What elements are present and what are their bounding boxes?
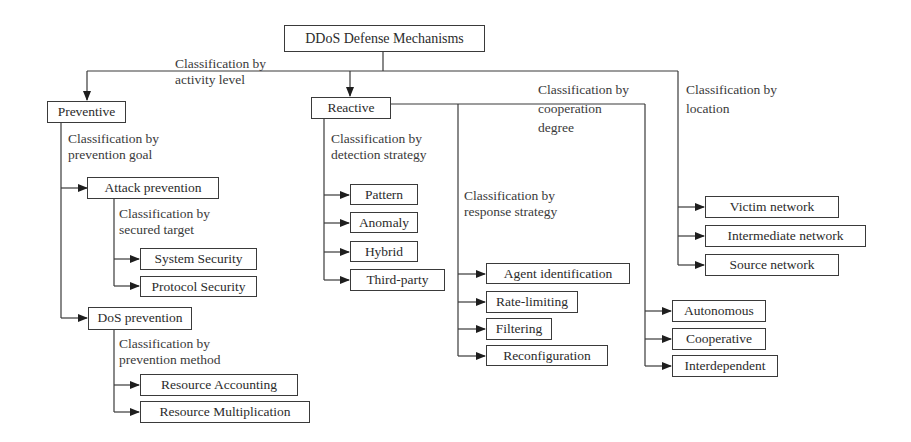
classification-line: prevention goal: [68, 147, 159, 163]
node-filtering: Filtering: [486, 318, 552, 340]
node-autonomous: Autonomous: [672, 300, 766, 322]
classification-cooperation-degree: Classification by cooperation degree: [538, 80, 629, 137]
classification-line: cooperation: [538, 99, 629, 118]
ddos-taxonomy-diagram: DDoS Defense Mechanisms Classification b…: [0, 0, 911, 442]
node-attack-prevention: Attack prevention: [87, 177, 219, 199]
classification-detection-strategy: Classification by detection strategy: [331, 131, 427, 163]
node-resource-accounting: Resource Accounting: [140, 374, 298, 396]
classification-line: location: [686, 99, 777, 118]
node-reconfiguration: Reconfiguration: [486, 345, 608, 366]
classification-line: activity level: [175, 72, 266, 88]
node-pattern: Pattern: [350, 184, 418, 205]
node-intermediate-network: Intermediate network: [705, 225, 866, 247]
classification-line: Classification by: [175, 56, 266, 72]
classification-prevention-goal: Classification by prevention goal: [68, 131, 159, 163]
classification-line: detection strategy: [331, 147, 427, 163]
node-anomaly: Anomaly: [350, 212, 418, 233]
root-node: DDoS Defense Mechanisms: [284, 25, 485, 52]
node-interdependent: Interdependent: [672, 355, 778, 377]
node-dos-prevention: DoS prevention: [88, 307, 192, 330]
node-rate-limiting: Rate-limiting: [486, 291, 578, 313]
classification-response-strategy: Classification by response strategy: [464, 188, 557, 220]
node-system-security: System Security: [140, 248, 257, 270]
node-source-network: Source network: [705, 254, 839, 276]
node-cooperative: Cooperative: [672, 328, 766, 350]
node-reactive: Reactive: [311, 97, 391, 119]
node-agent-identification: Agent identification: [486, 263, 630, 284]
classification-line: Classification by: [331, 131, 427, 147]
node-hybrid: Hybrid: [350, 241, 418, 262]
classification-activity-level: Classification by activity level: [175, 56, 266, 88]
node-resource-multiplication: Resource Multiplication: [140, 401, 310, 423]
classification-prevention-method: Classification by prevention method: [119, 336, 221, 368]
classification-line: Classification by: [119, 336, 221, 352]
classification-line: response strategy: [464, 204, 557, 220]
node-third-party: Third-party: [350, 269, 445, 291]
classification-secured-target: Classification by secured target: [119, 206, 210, 238]
classification-line: degree: [538, 118, 629, 137]
node-victim-network: Victim network: [705, 196, 839, 218]
classification-line: prevention method: [119, 352, 221, 368]
classification-location: Classification by location: [686, 80, 777, 118]
node-preventive: Preventive: [47, 101, 126, 123]
classification-line: Classification by: [538, 80, 629, 99]
classification-line: secured target: [119, 222, 210, 238]
classification-line: Classification by: [686, 80, 777, 99]
classification-line: Classification by: [119, 206, 210, 222]
classification-line: Classification by: [464, 188, 557, 204]
classification-line: Classification by: [68, 131, 159, 147]
node-protocol-security: Protocol Security: [140, 276, 257, 297]
